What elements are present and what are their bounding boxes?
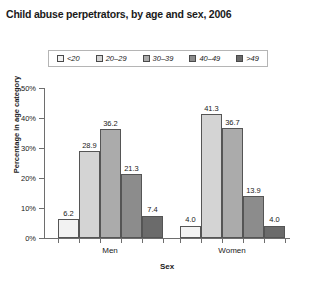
bar-value-label: 6.2 xyxy=(63,209,73,218)
legend-swatch-icon xyxy=(57,55,64,62)
x-axis-tick xyxy=(180,239,181,243)
x-axis-tick xyxy=(58,239,59,243)
legend-item-under-20: <20 xyxy=(57,55,80,63)
bar-value-label: 21.3 xyxy=(124,164,139,173)
bar-women-over-49[interactable] xyxy=(264,226,285,238)
x-axis-tick xyxy=(201,239,202,243)
bar-value-label: 36.7 xyxy=(225,118,240,127)
bar-value-label: 41.3 xyxy=(204,104,219,113)
x-axis-tick xyxy=(285,239,286,243)
bar-value-label: 36.2 xyxy=(103,119,118,128)
bars-layer: 6.2 28.9 36.2 21.3 7.4 4.0 41.3 36.7 13.… xyxy=(0,82,312,291)
x-axis-tick xyxy=(264,239,265,243)
bar-men-under-20[interactable] xyxy=(58,219,79,238)
legend-item-label: >49 xyxy=(246,55,259,63)
legend-item-label: <20 xyxy=(67,55,80,63)
page-title: Child abuse perpetrators, by age and sex… xyxy=(6,8,231,20)
legend-item-label: 30–39 xyxy=(153,55,174,63)
x-axis-tick xyxy=(142,239,143,243)
x-axis-tick xyxy=(163,239,164,243)
legend-swatch-icon xyxy=(189,55,196,62)
bar-women-under-20[interactable] xyxy=(180,226,201,238)
x-axis-tick xyxy=(79,239,80,243)
x-axis-tick xyxy=(222,239,223,243)
bar-women-30-39[interactable] xyxy=(222,128,243,238)
legend-swatch-icon xyxy=(96,55,103,62)
x-axis-tick xyxy=(243,239,244,243)
bar-women-40-49[interactable] xyxy=(243,196,264,238)
x-axis-group-label-women: Women xyxy=(218,246,245,255)
legend-item-40-49: 40–49 xyxy=(189,55,220,63)
bar-value-label: 28.9 xyxy=(82,141,97,150)
chart-legend: <20 20–29 30–39 40–49 >49 xyxy=(48,50,268,67)
legend-item-label: 20–29 xyxy=(106,55,127,63)
legend-item-label: 40–49 xyxy=(199,55,220,63)
bar-men-over-49[interactable] xyxy=(142,216,163,238)
chart-plot-area: Percentage in age category 0% 10% 20% 30… xyxy=(0,82,312,291)
legend-swatch-icon xyxy=(143,55,150,62)
bar-value-label: 13.9 xyxy=(246,186,261,195)
bar-value-label: 7.4 xyxy=(147,205,157,214)
legend-item-20-29: 20–29 xyxy=(96,55,127,63)
x-axis-tick xyxy=(121,239,122,243)
x-axis-tick xyxy=(100,239,101,243)
x-axis-group-label-men: Men xyxy=(102,246,118,255)
legend-item-over-49: >49 xyxy=(236,55,259,63)
bar-value-label: 4.0 xyxy=(269,215,279,224)
bar-men-40-49[interactable] xyxy=(121,174,142,238)
bar-value-label: 4.0 xyxy=(185,215,195,224)
x-axis-title: Sex xyxy=(44,262,290,271)
bar-men-20-29[interactable] xyxy=(79,151,100,238)
bar-women-20-29[interactable] xyxy=(201,114,222,238)
bar-men-30-39[interactable] xyxy=(100,129,121,238)
legend-swatch-icon xyxy=(236,55,243,62)
legend-item-30-39: 30–39 xyxy=(143,55,174,63)
